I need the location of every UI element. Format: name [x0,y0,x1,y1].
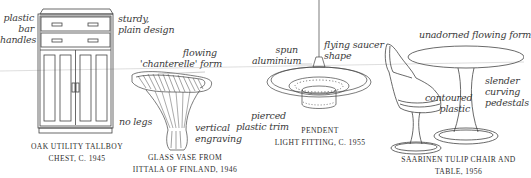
tallboy-chest-drawing [38,9,113,133]
annotation-line: handles [0,34,34,45]
annotation-line: slender [485,75,529,86]
annotation-line: plain design [118,24,174,35]
annotation-sturdy-plain-design: sturdy, plain design [118,13,174,35]
annotation-line: contoured [425,92,470,103]
annotation-contoured-plastic: contoured plastic [425,92,470,114]
annotation-line: plastic [0,12,34,23]
annotation-spun-aluminium: spun aluminium [252,44,298,66]
caption-line: SAARINEN TULIP CHAIR AND [393,154,524,166]
annotation-line: spun [252,44,298,55]
caption-line: PENDENT [265,125,375,137]
caption-line: CHEST, c. 1945 [26,153,128,165]
annotation-line: 'chanterelle' form [140,58,217,69]
annotation-line: shape [324,50,384,61]
caption-line: TABLE, 1956 [393,166,524,178]
annotation-slender-curving-pedestals: slender curving pedestals [485,75,529,108]
caption-tallboy: OAK UTILITY TALLBOY CHEST, c. 1945 [26,141,128,165]
annotation-vertical-engraving: vertical engraving [195,122,242,144]
annotation-line: plastic [425,103,470,114]
caption-line: OAK UTILITY TALLBOY [26,141,128,153]
annotation-chanterelle-form: flowing 'chanterelle' form [140,47,217,69]
annotation-line: flying saucer [324,39,384,50]
annotation-line: pierced [236,110,286,121]
annotation-line: vertical [195,122,242,133]
annotation-no-legs: no legs [119,116,152,127]
annotation-line: bar [0,23,34,34]
annotation-line: engraving [195,133,242,144]
annotation-line: flowing [140,47,217,58]
caption-tulip-chair-table: SAARINEN TULIP CHAIR AND TABLE, 1956 [393,154,524,178]
annotation-line: curving [485,86,529,97]
caption-pendant-light: PENDENT LIGHT FITTING, c. 1955 [265,125,375,149]
caption-line: IITTALA OF FINLAND, 1946 [120,164,250,176]
caption-vase: GLASS VASE FROM IITTALA OF FINLAND, 1946 [120,152,250,176]
annotation-line: aluminium [252,55,298,66]
annotation-line: pedestals [485,97,529,108]
annotation-flying-saucer-shape: flying saucer shape [324,39,384,61]
annotation-plastic-bar-handles: plastic bar handles [0,12,34,45]
annotation-line: sturdy, [118,13,174,24]
annotation-unadorned-flowing-form: unadorned flowing form [419,29,531,40]
caption-line: GLASS VASE FROM [120,152,250,164]
caption-line: LIGHT FITTING, c. 1955 [265,137,375,149]
